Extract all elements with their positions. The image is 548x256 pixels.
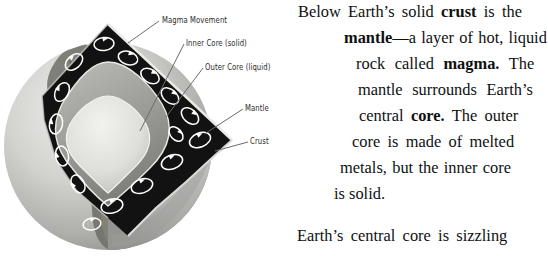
label-mantle: Mantle <box>245 103 269 113</box>
text-line: central core. The outer <box>359 108 518 124</box>
text-line: mantle surrounds Earth’s <box>358 82 533 98</box>
body-text-column: Below Earth’s solid crust is the mantle—… <box>296 0 548 256</box>
label-crust: Crust <box>250 136 269 146</box>
text-line: mantle—a layer of hot, liquid <box>344 30 547 46</box>
earth-cutaway-figure: Magma Movement Inner Core (solid) Outer … <box>0 0 300 256</box>
text-line: Earth’s central core is sizzling <box>297 228 507 244</box>
text-line: rock called magma. The <box>356 56 534 72</box>
label-outer-core: Outer Core (liquid) <box>205 62 271 72</box>
text-line: Below Earth’s solid crust is the <box>298 4 522 20</box>
text-line: metals, but the inner core <box>340 160 511 176</box>
label-inner-core: Inner Core (solid) <box>186 38 247 48</box>
text-line: core is made of melted <box>352 134 514 150</box>
earth-cutaway-illustration <box>0 0 300 256</box>
label-magma-movement: Magma Movement <box>162 15 227 25</box>
text-line: is solid. <box>334 186 385 202</box>
leader-magma-movement <box>128 21 159 43</box>
